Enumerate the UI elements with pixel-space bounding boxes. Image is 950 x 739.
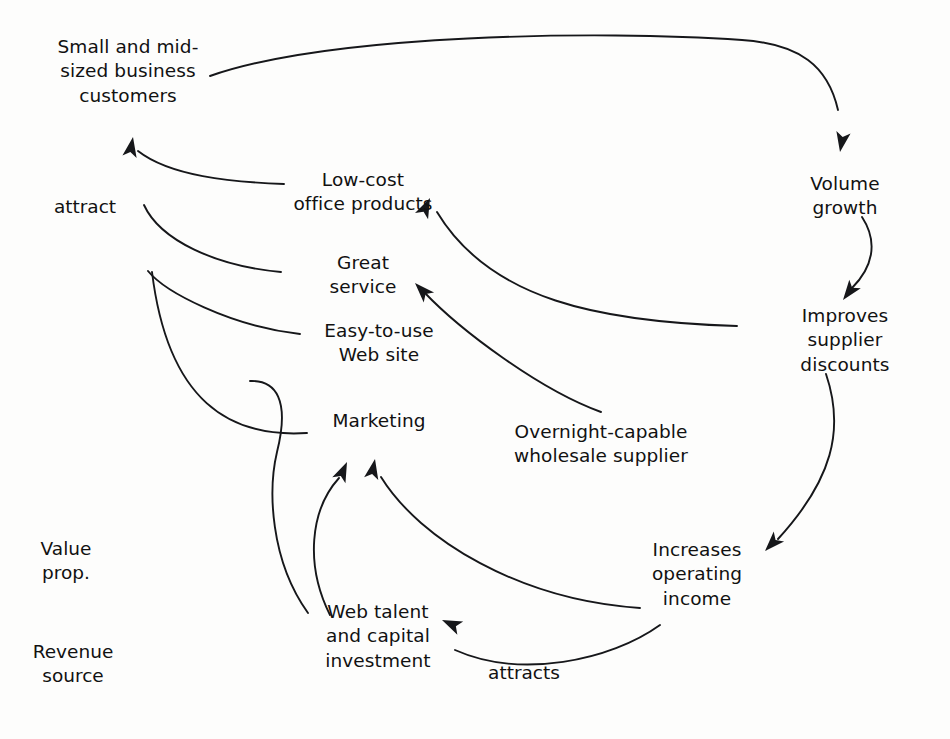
edge-overnight-supplier-to-great-service — [424, 292, 601, 412]
edge-supplier-discounts-to-low-cost — [437, 212, 737, 326]
arrowhead-operating-income-to-web-talent — [439, 613, 463, 634]
arrowhead-customers-to-volume-growth — [833, 131, 851, 153]
edge-volume-growth-to-supplier-discounts — [852, 217, 872, 288]
diagram-connectors — [0, 0, 950, 739]
edge-supplier-discounts-to-operating-income — [778, 374, 834, 539]
edge-operating-income-to-marketing — [381, 477, 640, 608]
arrowhead-supplier-discounts-to-low-cost — [415, 195, 437, 219]
edge-web-talent-to-marketing — [314, 478, 339, 615]
edge-web-talent-to-customers-long — [250, 381, 308, 613]
arrowhead-attract-arrowhead — [122, 136, 140, 158]
edge-customers-to-volume-growth — [210, 35, 838, 110]
arrowhead-operating-income-to-marketing — [364, 458, 382, 480]
diagram-canvas: Small and mid- sized business customersL… — [0, 0, 950, 739]
edge-web-site-to-customers — [148, 271, 300, 334]
edge-marketing-to-customers — [152, 272, 307, 433]
edge-low-cost-to-customers — [138, 151, 284, 184]
arrowhead-web-talent-to-marketing — [332, 459, 353, 483]
edge-great-service-to-customers — [144, 205, 281, 272]
edge-operating-income-to-web-talent — [455, 625, 660, 664]
